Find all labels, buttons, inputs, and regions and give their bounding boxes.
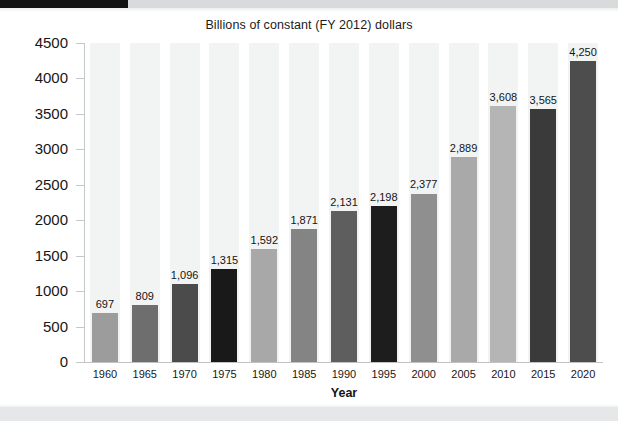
bar-1985[interactable] (291, 229, 317, 362)
y-axis-tick-label: 2500 (0, 177, 68, 192)
y-axis-tick-label: 500 (0, 319, 68, 334)
y-axis-tick-mark (76, 185, 84, 186)
y-axis-tick-label: 1000 (0, 283, 68, 298)
y-axis-tick-mark (76, 256, 84, 257)
bar-1960[interactable] (92, 313, 118, 362)
y-axis-tick-mark (76, 149, 84, 150)
bar-value-label-2020: 4,250 (559, 46, 607, 58)
bar-value-label-1965: 809 (121, 290, 169, 302)
y-axis-tick-label: 1500 (0, 248, 68, 263)
y-axis-tick-label: 4000 (0, 70, 68, 85)
y-axis-tick-label: 2000 (0, 212, 68, 227)
y-axis-tick-mark (76, 291, 84, 292)
bar-value-label-1970: 1,096 (161, 269, 209, 281)
bar-2000[interactable] (411, 194, 437, 363)
bar-2020[interactable] (570, 61, 596, 362)
y-axis-tick-label: 3000 (0, 141, 68, 156)
x-axis-title: Year (85, 386, 603, 400)
y-axis-tick-mark (76, 220, 84, 221)
y-axis-tick-label: 0 (0, 354, 68, 369)
bar-value-label-2005: 2,889 (440, 142, 488, 154)
bar-2005[interactable] (451, 157, 477, 362)
bar-1975[interactable] (211, 269, 237, 362)
bar-1970[interactable] (172, 284, 198, 362)
page-top-banner (0, 0, 128, 8)
bar-value-label-1995: 2,198 (360, 191, 408, 203)
y-axis-tick-mark (76, 327, 84, 328)
y-axis-tick-mark (76, 114, 84, 115)
bar-1965[interactable] (132, 305, 158, 362)
page-top-strip (128, 0, 618, 8)
y-axis-tick-mark (76, 43, 84, 44)
x-axis-line (84, 362, 603, 363)
bar-value-label-1975: 1,315 (200, 254, 248, 266)
bar-2010[interactable] (490, 106, 516, 362)
y-axis-tick-label: 4500 (0, 35, 68, 50)
bar-1995[interactable] (371, 206, 397, 362)
chart-title: Billions of constant (FY 2012) dollars (0, 18, 618, 32)
bar-value-label-1980: 1,592 (240, 234, 288, 246)
y-axis-tick-mark (76, 78, 84, 79)
bar-value-label-2000: 2,377 (400, 178, 448, 190)
bar-chart-figure: Billions of constant (FY 2012) dollars 4… (0, 12, 618, 404)
bar-2015[interactable] (530, 109, 556, 362)
bar-1980[interactable] (251, 249, 277, 362)
bar-value-label-2015: 3,565 (519, 94, 567, 106)
bar-value-label-1985: 1,871 (280, 214, 328, 226)
y-axis-tick-mark (76, 362, 84, 363)
x-axis-tick-label-2020: 2020 (559, 368, 607, 380)
y-axis-tick-label: 3500 (0, 106, 68, 121)
bar-1990[interactable] (331, 211, 357, 362)
page-bottom-strip (0, 407, 618, 421)
